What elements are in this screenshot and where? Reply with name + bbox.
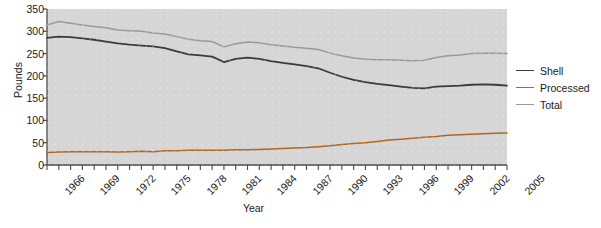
x-tick-label: 1981 <box>239 172 264 197</box>
x-tick-label: 2002 <box>486 172 511 197</box>
x-tick-label: 1999 <box>451 172 476 197</box>
x-tick-label: 1993 <box>380 172 405 197</box>
x-tick-label: 1987 <box>310 172 335 197</box>
legend-swatch-shell-icon <box>516 70 534 71</box>
x-tick-label: 1978 <box>203 172 228 197</box>
legend-item-total[interactable]: Total <box>516 96 601 113</box>
legend-label: Processed <box>540 82 590 94</box>
legend-label: Total <box>540 99 562 111</box>
x-tick-label: 1966 <box>62 172 87 197</box>
x-tick-label: 1996 <box>416 172 441 197</box>
x-tick-label: 1972 <box>133 172 158 197</box>
legend-item-shell[interactable]: Shell <box>516 62 601 79</box>
legend-label: Shell <box>540 65 563 77</box>
legend-item-processed[interactable]: Processed <box>516 79 601 96</box>
chart-figure: 050100150200250300350 196619691972197519… <box>0 0 601 228</box>
legend-swatch-total-icon <box>516 104 534 105</box>
x-axis-tick-labels: 1966196919721975197819811984198719901993… <box>0 0 601 228</box>
legend-swatch-processed-icon <box>516 87 534 88</box>
y-axis-title: Pounds <box>12 40 24 120</box>
x-axis-title: Year <box>0 202 507 214</box>
x-tick-label: 2005 <box>522 172 547 197</box>
chart-legend: ShellProcessedTotal <box>516 62 601 113</box>
x-tick-label: 1969 <box>97 172 122 197</box>
x-tick-label: 1975 <box>168 172 193 197</box>
x-tick-label: 1990 <box>345 172 370 197</box>
x-tick-label: 1984 <box>274 172 299 197</box>
